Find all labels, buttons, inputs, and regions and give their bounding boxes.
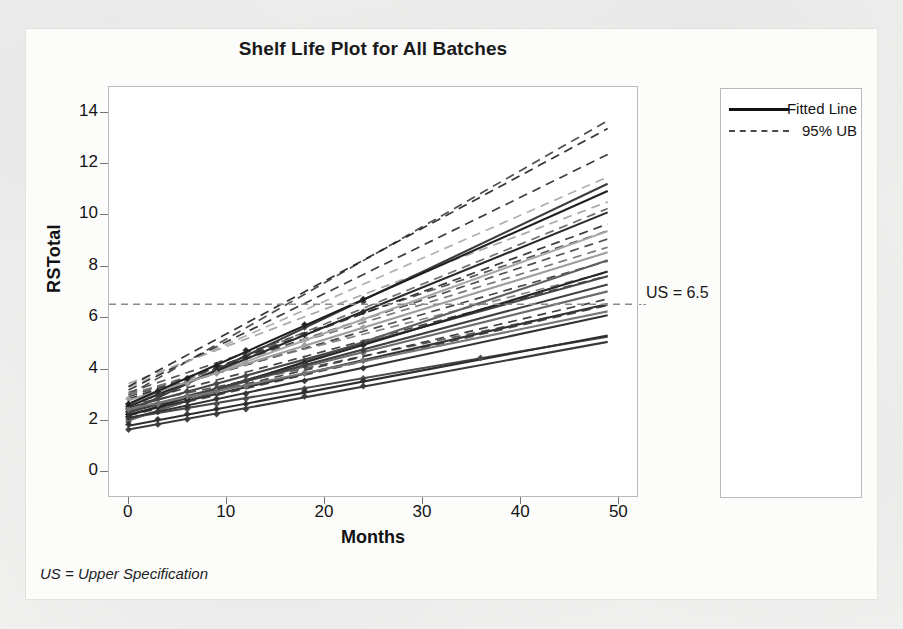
data-point-marker (125, 426, 132, 433)
data-point-marker (184, 416, 191, 423)
y-tick-mark (100, 214, 108, 215)
x-tick-mark (226, 497, 227, 504)
data-point-marker (213, 411, 220, 418)
x-tick-label: 20 (301, 502, 347, 522)
y-tick-mark (100, 266, 108, 267)
x-tick-label: 50 (595, 502, 641, 522)
data-point-marker (360, 324, 367, 331)
x-tick-mark (128, 497, 129, 504)
plot-area (108, 86, 638, 497)
figure-footnote: US = Upper Specification (40, 565, 208, 582)
x-tick-mark (520, 497, 521, 504)
y-tick-label: 14 (62, 101, 98, 121)
y-axis-title: RSTotal (44, 199, 65, 319)
fitted-line (129, 260, 608, 420)
y-tick-label: 0 (62, 460, 98, 480)
fitted-line-swatch (729, 108, 789, 111)
y-tick-label: 12 (62, 152, 98, 172)
y-tick-mark (100, 112, 108, 113)
y-tick-label: 10 (62, 203, 98, 223)
fitted-line (129, 315, 608, 418)
data-point-marker (154, 421, 161, 428)
x-axis-title: Months (108, 527, 638, 548)
data-point-marker (301, 378, 308, 385)
x-tick-label: 40 (497, 502, 543, 522)
y-tick-mark (100, 420, 108, 421)
spec-limit-leader (639, 304, 646, 305)
y-tick-mark (100, 471, 108, 472)
spec-limit-annotation: US = 6.5 (646, 284, 709, 302)
plot-svg (109, 87, 637, 496)
y-tick-label: 2 (62, 409, 98, 429)
data-point-marker (213, 395, 220, 402)
x-tick-label: 10 (203, 502, 249, 522)
x-tick-mark (324, 497, 325, 504)
fitted-line (129, 276, 608, 408)
legend-line-row[interactable]: 95% UB (721, 121, 863, 141)
y-tick-label: 4 (62, 358, 98, 378)
data-point-marker (301, 370, 308, 377)
y-tick-label: 6 (62, 306, 98, 326)
data-point-marker (360, 365, 367, 372)
y-tick-mark (100, 369, 108, 370)
legend-line-label: 95% UB (785, 121, 857, 141)
fitted-line (129, 304, 608, 414)
y-tick-mark (100, 163, 108, 164)
x-tick-mark (618, 497, 619, 504)
x-tick-label: 0 (105, 502, 151, 522)
legend: Fitted Line95% UB (720, 88, 862, 498)
x-tick-label: 30 (399, 502, 445, 522)
fitted-line (129, 191, 608, 404)
legend-line-label: Fitted Line (785, 99, 857, 119)
data-point-marker (360, 357, 367, 364)
data-point-marker (360, 383, 367, 390)
upper-bound-line-swatch (729, 130, 789, 132)
upper-bound-line (129, 209, 608, 404)
chart-title: Shelf Life Plot for All Batches (108, 38, 638, 60)
legend-line-row[interactable]: Fitted Line (721, 99, 863, 119)
y-tick-label: 8 (62, 255, 98, 275)
x-tick-mark (422, 497, 423, 504)
y-tick-mark (100, 317, 108, 318)
